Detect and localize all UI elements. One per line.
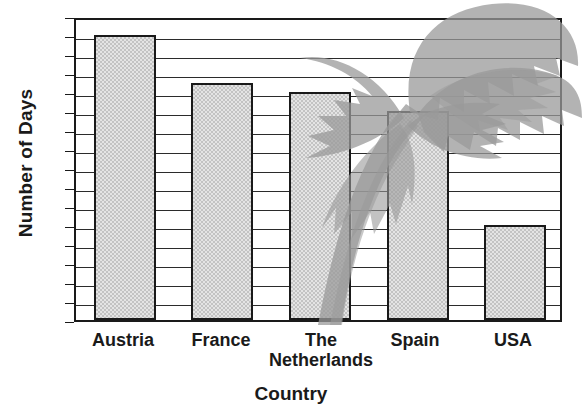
y-axis-tick bbox=[65, 75, 74, 76]
bar-austria bbox=[94, 35, 156, 320]
x-tick-label-line1: Spain bbox=[366, 330, 464, 350]
y-axis-tick bbox=[65, 227, 74, 228]
y-axis-tick bbox=[65, 322, 74, 323]
x-axis-title: Country bbox=[0, 383, 582, 405]
bar-usa bbox=[484, 225, 546, 320]
y-axis-tick bbox=[65, 170, 74, 171]
bar-the-netherlands bbox=[289, 92, 351, 320]
chart-figure: Number of Days 30 20 10 0 Austria France… bbox=[0, 0, 582, 417]
x-tick-label-line1: Austria bbox=[74, 330, 172, 350]
x-tick-label-austria: Austria bbox=[74, 330, 172, 350]
y-axis-tick bbox=[65, 208, 74, 209]
y-axis-tick bbox=[65, 18, 74, 19]
bar-spain bbox=[387, 111, 449, 320]
x-tick-label-usa: USA bbox=[464, 330, 562, 350]
plot-area bbox=[74, 18, 562, 322]
y-axis-tick bbox=[65, 56, 74, 57]
x-tick-label-france: France bbox=[172, 330, 270, 350]
y-axis-tick bbox=[65, 303, 74, 304]
y-axis-tick bbox=[65, 132, 74, 133]
x-tick-label-line2: Netherlands bbox=[268, 350, 374, 370]
y-axis-tick bbox=[65, 94, 74, 95]
x-tick-label-line1: The bbox=[268, 330, 374, 350]
y-axis-tick bbox=[65, 265, 74, 266]
y-axis-title: Number of Days bbox=[15, 33, 37, 293]
y-axis-tick bbox=[65, 37, 74, 38]
x-tick-label-line1: France bbox=[172, 330, 270, 350]
y-axis-tick bbox=[65, 113, 74, 114]
bar-series bbox=[76, 20, 560, 320]
x-tick-label-spain: Spain bbox=[366, 330, 464, 350]
bar-france bbox=[191, 83, 253, 321]
y-axis-tick bbox=[65, 151, 74, 152]
y-axis-tick bbox=[65, 189, 74, 190]
x-tick-label-line1: USA bbox=[464, 330, 562, 350]
y-axis-tick bbox=[65, 246, 74, 247]
y-axis-tick bbox=[65, 284, 74, 285]
x-tick-label-the-netherlands: The Netherlands bbox=[268, 330, 374, 370]
